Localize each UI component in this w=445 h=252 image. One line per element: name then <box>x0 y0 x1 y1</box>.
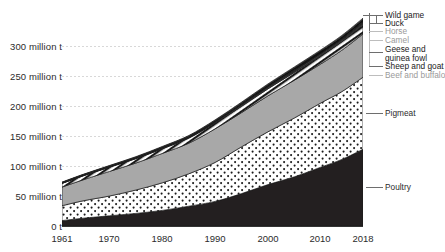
x-axis-label-1990: 1990 <box>204 233 225 244</box>
y-axis-label-100: 100 million t <box>10 161 62 172</box>
leader-beef-and-buffalo <box>369 75 383 76</box>
callout-poultry: Poultry <box>385 183 411 193</box>
x-axis-label-2000: 2000 <box>257 233 278 244</box>
leader-sheep-and-goat <box>369 66 383 67</box>
leader-wild-game <box>363 15 383 16</box>
leader-poultry <box>366 187 383 188</box>
x-axis-label-2018: 2018 <box>352 233 373 244</box>
stacked-area-svg <box>62 10 363 226</box>
leader-duck <box>369 23 383 24</box>
area-series-group <box>62 18 363 226</box>
y-axis-label-250: 250 million t <box>10 71 62 82</box>
x-axis-label-1970: 1970 <box>98 233 119 244</box>
callout-beef-and-buffalo: Beef and buffalo <box>385 71 445 81</box>
y-axis-label-200: 200 million t <box>10 101 62 112</box>
leader-geese <box>369 52 383 53</box>
leader-camel <box>369 40 383 41</box>
plot-area <box>62 10 363 226</box>
leader-pigmeat <box>366 113 383 114</box>
y-axis-label-0: 0 t <box>51 221 62 232</box>
x-axis-label-2010: 2010 <box>309 233 330 244</box>
callout-pigmeat: Pigmeat <box>385 109 415 119</box>
y-axis-label-150: 150 million t <box>10 131 62 142</box>
legend-bracket-wildgame <box>376 15 377 23</box>
y-axis-label-50: 50 million t <box>15 191 62 202</box>
axis-baseline <box>62 226 363 227</box>
leader-horse <box>369 31 383 32</box>
y-axis-label-300: 300 million t <box>10 41 62 52</box>
legend-bracket-mid <box>369 33 370 67</box>
x-axis-label-1980: 1980 <box>151 233 172 244</box>
x-axis-label-1961: 1961 <box>51 233 72 244</box>
